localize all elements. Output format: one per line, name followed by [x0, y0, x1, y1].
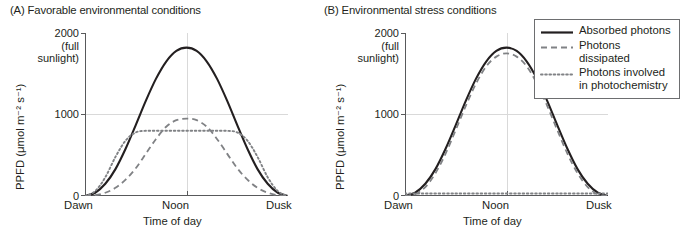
panel-a-xtick-noon: Noon: [162, 199, 189, 211]
panel-b-ytick-1000: 1000: [337, 108, 399, 121]
legend-item-photons-dissipated: Photons dissipated: [540, 39, 674, 65]
legend-item-absorbed-photons: Absorbed photons: [540, 24, 674, 38]
legend: Absorbed photons Photons dissipated Phot…: [534, 19, 680, 99]
legend-label-absorbed-photons: Absorbed photons: [579, 24, 671, 37]
panel-b-xtick-dawn: Dawn: [384, 199, 413, 211]
panel-b-ytick-2000: 2000 (full sunlight): [337, 27, 399, 65]
panel-a-ytick-2000-value: 2000: [17, 27, 79, 40]
panel-a-ytick-2000: 2000 (full sunlight): [17, 27, 79, 65]
legend-swatch-dotted-icon: [540, 67, 574, 80]
panel-b-xtick-dusk: Dusk: [586, 199, 612, 211]
panel-b-ytick-2000-value: 2000: [337, 27, 399, 40]
panel-b-ytick-2000-sub2: sunlight): [337, 52, 399, 65]
panel-a-xtick-dawn: Dawn: [64, 199, 93, 211]
panel-a-xtick-dusk: Dusk: [266, 199, 292, 211]
panel-a-title: (A) Favorable environmental conditions: [10, 4, 201, 16]
panel-b-x-axis-title: Time of day: [463, 215, 522, 227]
panel-b-ytick-2000-sub1: (full: [337, 40, 399, 53]
legend-swatch-dashed-icon: [540, 40, 574, 53]
panel-a-ytick-1000: 1000: [17, 108, 79, 121]
panel-a-curves: [85, 33, 288, 196]
legend-item-photons-photochemistry: Photons involved in photochemistry: [540, 66, 674, 92]
legend-swatch-solid-icon: [540, 25, 574, 38]
panel-a-ytick-2000-sub2: sunlight): [17, 52, 79, 65]
legend-label-photons-dissipated: Photons dissipated: [579, 39, 674, 65]
panel-b-title: (B) Environmental stress conditions: [324, 4, 496, 16]
panel-a-x-axis-title: Time of day: [143, 215, 202, 227]
panel-a-ytick-2000-sub1: (full: [17, 40, 79, 53]
panel-a-y-axis-title: PPFD (μmol m⁻² s⁻¹): [14, 84, 27, 190]
panel-b-xtick-noon: Noon: [482, 199, 509, 211]
panel-a: (A) Favorable environmental conditions P…: [0, 0, 340, 236]
panel-a-plot-area: [85, 33, 288, 196]
figure-container: (A) Favorable environmental conditions P…: [0, 0, 685, 236]
legend-label-photons-photochemistry: Photons involved in photochemistry: [579, 66, 668, 92]
panel-b-y-axis-title: PPFD (μmol m⁻² s⁻¹): [334, 84, 347, 190]
